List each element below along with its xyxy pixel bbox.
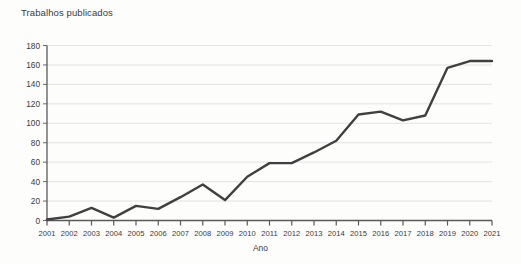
x-tick-label: 2020 — [461, 229, 478, 238]
y-tick-label: 80 — [31, 138, 41, 148]
y-tick-label: 120 — [26, 99, 40, 109]
y-tick-label: 20 — [31, 196, 41, 206]
x-tick-label: 2008 — [194, 229, 211, 238]
x-tick-label: 2002 — [61, 229, 78, 238]
x-tick-label: 2014 — [328, 229, 345, 238]
data-series-line — [47, 61, 492, 219]
chart-figure: Trabalhos publicados 0204060801001201401… — [0, 0, 521, 264]
x-tick-label: 2021 — [484, 229, 501, 238]
x-tick-label: 2015 — [350, 229, 367, 238]
y-tick-label: 100 — [26, 118, 40, 128]
x-tick-label: 2001 — [39, 229, 56, 238]
x-tick-label: 2016 — [372, 229, 389, 238]
y-tick-label: 60 — [31, 157, 41, 167]
x-tick-label: 2004 — [105, 229, 122, 238]
y-tick-label: 160 — [26, 60, 40, 70]
x-tick-label: 2018 — [417, 229, 434, 238]
x-tick-label: 2010 — [239, 229, 256, 238]
x-tick-label: 2019 — [439, 229, 456, 238]
x-tick-label: 2003 — [83, 229, 100, 238]
x-tick-label: 2006 — [150, 229, 167, 238]
x-tick-label: 2017 — [395, 229, 412, 238]
y-tick-label: 180 — [26, 41, 40, 51]
x-tick-label: 2009 — [217, 229, 234, 238]
x-tick-label: 2011 — [261, 229, 277, 238]
y-tick-label: 40 — [31, 177, 41, 187]
y-tick-label: 0 — [35, 216, 40, 226]
y-tick-label: 140 — [26, 79, 40, 89]
line-chart-plot: 0204060801001201401601802001200220032004… — [0, 0, 521, 264]
x-tick-label: 2005 — [128, 229, 145, 238]
x-tick-label: 2007 — [172, 229, 189, 238]
x-tick-label: 2013 — [306, 229, 323, 238]
x-tick-label: 2012 — [283, 229, 300, 238]
x-axis-title: Ano — [0, 243, 521, 253]
